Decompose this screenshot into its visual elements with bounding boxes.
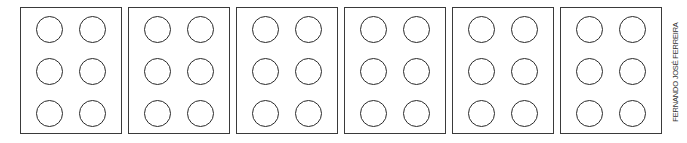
braille-dot-2 <box>468 58 495 85</box>
braille-dot-1 <box>576 16 603 43</box>
braille-dot-3 <box>468 100 495 127</box>
braille-cell-3 <box>236 7 338 134</box>
braille-dot-2 <box>144 58 171 85</box>
braille-dot-4 <box>295 16 322 43</box>
braille-dot-4 <box>619 16 646 43</box>
braille-dot-3 <box>360 100 387 127</box>
braille-dot-5 <box>403 58 430 85</box>
credit-text: FERNANDO JOSÉ FERREIRA <box>671 22 680 121</box>
braille-dot-4 <box>403 16 430 43</box>
braille-dot-1 <box>468 16 495 43</box>
braille-dot-6 <box>403 100 430 127</box>
braille-dot-3 <box>36 100 63 127</box>
braille-dot-5 <box>187 58 214 85</box>
braille-cell-6 <box>560 7 662 134</box>
braille-cell-4 <box>344 7 446 134</box>
braille-dot-4 <box>79 16 106 43</box>
braille-dot-6 <box>295 100 322 127</box>
braille-dot-4 <box>187 16 214 43</box>
braille-dot-2 <box>36 58 63 85</box>
braille-dot-5 <box>295 58 322 85</box>
braille-dot-6 <box>187 100 214 127</box>
photo-credit: FERNANDO JOSÉ FERREIRA <box>668 10 682 134</box>
braille-dot-5 <box>79 58 106 85</box>
braille-dot-2 <box>360 58 387 85</box>
braille-dot-5 <box>619 58 646 85</box>
braille-dot-4 <box>511 16 538 43</box>
braille-dot-1 <box>252 16 279 43</box>
braille-dot-6 <box>619 100 646 127</box>
braille-cell-5 <box>452 7 554 134</box>
braille-dot-3 <box>252 100 279 127</box>
braille-dot-2 <box>252 58 279 85</box>
braille-dot-1 <box>360 16 387 43</box>
braille-cell-2 <box>128 7 230 134</box>
braille-dot-1 <box>144 16 171 43</box>
braille-dot-3 <box>144 100 171 127</box>
braille-cell-1 <box>20 7 122 134</box>
braille-dot-1 <box>36 16 63 43</box>
braille-dot-6 <box>79 100 106 127</box>
braille-dot-2 <box>576 58 603 85</box>
braille-dot-3 <box>576 100 603 127</box>
braille-dot-5 <box>511 58 538 85</box>
braille-dot-6 <box>511 100 538 127</box>
